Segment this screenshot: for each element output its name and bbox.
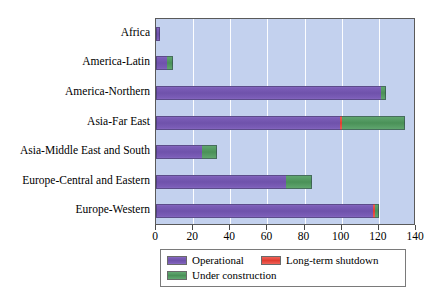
legend-label-shutdown: Long-term shutdown: [286, 254, 379, 266]
chart-legend: Operational Long-term shutdown Under con…: [160, 249, 406, 287]
legend-item-construction[interactable]: Under construction: [167, 269, 277, 281]
x-tick-label: 60: [261, 230, 273, 242]
legend-label-construction: Under construction: [192, 269, 277, 281]
legend-swatch-construction: [167, 271, 187, 280]
x-tick-label: 120: [369, 230, 386, 242]
category-label: Asia-Far East: [0, 115, 150, 127]
x-tick-label: 0: [152, 230, 158, 242]
category-label: Africa: [0, 26, 150, 38]
category-label: Europe-Western: [0, 203, 150, 215]
category-label: America-Northern: [0, 85, 150, 97]
legend-row-1: Operational Long-term shutdown: [167, 254, 399, 266]
stacked-bar-chart: AfricaAmerica-LatinAmerica-NorthernAsia-…: [0, 0, 440, 303]
legend-row-2: Under construction: [167, 269, 399, 281]
legend-swatch-shutdown: [261, 256, 281, 265]
category-axis-labels: AfricaAmerica-LatinAmerica-NorthernAsia-…: [0, 18, 440, 225]
x-tick-label: 80: [298, 230, 310, 242]
legend-item-operational[interactable]: Operational: [167, 254, 244, 266]
category-label: America-Latin: [0, 55, 150, 67]
x-tick-label: 100: [332, 230, 349, 242]
category-label: Asia-Middle East and South: [0, 144, 150, 156]
x-tick-label: 40: [224, 230, 236, 242]
x-tick-label: 140: [406, 230, 423, 242]
category-label: Europe-Central and Eastern: [0, 174, 150, 186]
legend-label-operational: Operational: [192, 254, 244, 266]
x-axis: 020406080100120140: [155, 225, 415, 247]
x-tick-label: 20: [186, 230, 198, 242]
legend-swatch-operational: [167, 256, 187, 265]
legend-item-shutdown[interactable]: Long-term shutdown: [261, 254, 379, 266]
